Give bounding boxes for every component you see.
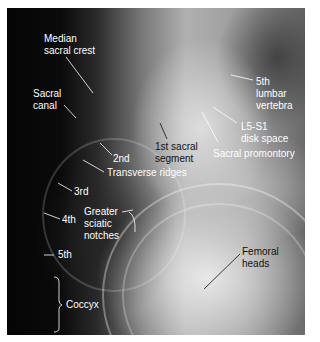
label-line: heads bbox=[242, 258, 279, 270]
label-median-sacral-crest: Median sacral crest bbox=[44, 33, 95, 57]
label-sacral-promontory: Sacral promontory bbox=[213, 148, 295, 160]
label-5th: 5th bbox=[58, 249, 72, 261]
label-line: lumbar bbox=[256, 88, 293, 100]
label-line: sciatic bbox=[84, 218, 119, 230]
label-1st-sacral-segment: 1st sacral segment bbox=[155, 141, 198, 165]
label-greater-sciatic-notches: Greater sciatic notches bbox=[84, 206, 119, 242]
label-2nd: 2nd bbox=[113, 153, 130, 165]
label-line: 1st sacral bbox=[155, 141, 198, 153]
label-transverse-ridges: Transverse ridges bbox=[107, 167, 187, 179]
label-line: 5th bbox=[256, 76, 293, 88]
label-femoral-heads: Femoral heads bbox=[242, 246, 279, 270]
label-line: Greater bbox=[84, 206, 119, 218]
label-line: segment bbox=[155, 153, 198, 165]
label-line: Femoral bbox=[242, 246, 279, 258]
label-line: notches bbox=[84, 230, 119, 242]
label-line: sacral crest bbox=[44, 45, 95, 57]
label-l5-s1-disk-space: L5-S1 disk space bbox=[241, 121, 288, 145]
label-line: canal bbox=[33, 100, 61, 112]
label-sacral-canal: Sacral canal bbox=[33, 88, 61, 112]
label-coccyx: Coccyx bbox=[66, 299, 99, 311]
label-5th-lumbar-vertebra: 5th lumbar vertebra bbox=[256, 76, 293, 112]
label-line: vertebra bbox=[256, 100, 293, 112]
label-line: Sacral bbox=[33, 88, 61, 100]
label-line: disk space bbox=[241, 133, 288, 145]
label-line: Median bbox=[44, 33, 95, 45]
label-3rd: 3rd bbox=[74, 186, 88, 198]
label-line: L5-S1 bbox=[241, 121, 288, 133]
label-4th: 4th bbox=[62, 214, 76, 226]
